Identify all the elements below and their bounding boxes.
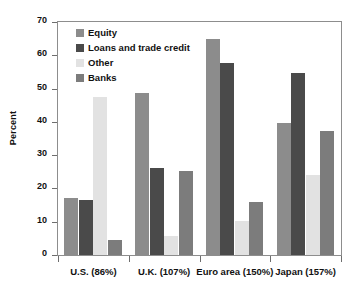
x-axis-tick-mark [270, 256, 271, 262]
bar [235, 221, 249, 255]
bar-group [277, 22, 335, 255]
y-axis-tick-label: 40 [37, 115, 47, 125]
legend-item-label: Loans and trade credit [88, 43, 190, 53]
bar [79, 200, 93, 255]
y-axis-tick-label: 10 [37, 215, 47, 225]
bar [64, 198, 78, 255]
x-axis-tick-mark [200, 256, 201, 262]
bar [306, 175, 320, 255]
x-axis-tick-mark [129, 256, 130, 262]
x-axis-label: U.S. (86%) [70, 266, 116, 277]
bar [179, 171, 193, 255]
legend-item: Banks [76, 71, 190, 84]
x-axis-tick-mark [341, 256, 342, 262]
bar [150, 168, 164, 255]
legend-item: Loans and trade credit [76, 41, 190, 54]
bar [220, 63, 234, 255]
y-axis-tick-label: 30 [37, 148, 47, 158]
bar [135, 93, 149, 255]
legend-item: Equity [76, 26, 190, 39]
x-axis-label: Euro area (150%) [196, 266, 273, 277]
bar-group [206, 22, 264, 255]
y-axis-tick-label: 20 [37, 181, 47, 191]
chart-legend: EquityLoans and trade creditOtherBanks [76, 26, 190, 86]
bar [249, 202, 263, 255]
y-axis-tick-label: 70 [37, 15, 47, 25]
x-axis-label: Japan (157%) [275, 266, 336, 277]
y-axis-tick-label: 0 [42, 248, 47, 258]
legend-swatch-icon [76, 74, 84, 82]
legend-item-label: Banks [88, 73, 117, 83]
bar [206, 39, 220, 255]
legend-item: Other [76, 56, 190, 69]
y-axis-tick-label: 50 [37, 82, 47, 92]
bar [291, 73, 305, 255]
legend-swatch-icon [76, 44, 84, 52]
legend-item-label: Equity [88, 28, 117, 38]
legend-item-label: Other [88, 58, 113, 68]
legend-swatch-icon [76, 59, 84, 67]
bar [93, 97, 107, 255]
bar [164, 236, 178, 255]
legend-swatch-icon [76, 29, 84, 37]
y-axis-tick-label: 60 [37, 48, 47, 58]
y-axis-title: Percent [8, 98, 18, 158]
bar [108, 240, 122, 255]
x-axis-tick-mark [58, 256, 59, 262]
x-axis-label: U.K. (107%) [138, 266, 190, 277]
bar [277, 123, 291, 255]
bar-chart: Percent 010203040506070 U.S. (86%)U.K. (… [0, 0, 356, 294]
bar [320, 131, 334, 255]
